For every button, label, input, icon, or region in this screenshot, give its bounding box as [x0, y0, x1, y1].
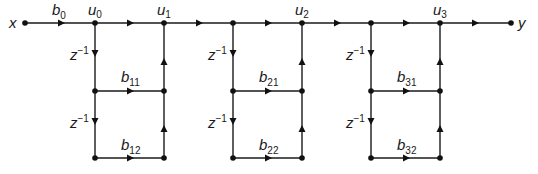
gain-b11-label: b11 [121, 68, 140, 88]
stage-1: z−1 z−1 b11 b12 [69, 20, 168, 161]
arrow-right-icon [472, 20, 479, 27]
node-u3-label: u3 [433, 1, 447, 20]
arrow-down-icon [368, 118, 375, 125]
arrow-down-icon [230, 118, 237, 125]
output-label: y [517, 14, 527, 31]
delay-label: z−1 [69, 113, 89, 131]
gain-b32-label: b32 [397, 136, 417, 156]
arrow-right-icon [196, 20, 203, 27]
arrow-down-icon [230, 50, 237, 57]
delay-label: z−1 [69, 45, 89, 63]
delay-label: z−1 [345, 113, 365, 131]
arrow-down-icon [92, 118, 99, 125]
node-u1-label: u1 [157, 1, 171, 20]
signal-flow-diagram: x y b0 u0 u1 u2 u3 z−1 z−1 b11 b12 [0, 0, 538, 174]
gain-b31-label: b31 [397, 68, 417, 88]
arrow-right-icon [334, 20, 341, 27]
arrow-down-icon [368, 50, 375, 57]
arrow-right-icon [265, 20, 272, 27]
arrow-up-icon [161, 58, 168, 65]
gain-b21-label: b21 [259, 68, 279, 88]
input-label: x [8, 14, 17, 31]
delay-label: z−1 [207, 113, 227, 131]
arrow-right-icon [403, 20, 410, 27]
stage-3: z−1 z−1 b31 b32 [345, 20, 444, 161]
output-node [508, 20, 514, 26]
gain-b0-label: b0 [52, 1, 66, 21]
node-u0-label: u0 [88, 1, 102, 20]
arrow-right-icon [127, 20, 134, 27]
arrow-right-icon [403, 88, 410, 95]
arrow-up-icon [299, 125, 306, 132]
delay-label: z−1 [207, 45, 227, 63]
arrow-down-icon [92, 50, 99, 57]
delay-label: z−1 [345, 45, 365, 63]
arrow-up-icon [161, 125, 168, 132]
arrow-up-icon [437, 125, 444, 132]
arrow-right-icon [127, 88, 134, 95]
arrow-up-icon [299, 58, 306, 65]
node-u2-label: u2 [295, 1, 309, 20]
gain-b12-label: b12 [121, 136, 141, 156]
input-node [22, 20, 28, 26]
arrow-up-icon [437, 58, 444, 65]
arrow-right-icon [265, 88, 272, 95]
stage-2: z−1 z−1 b21 b22 [207, 20, 306, 161]
gain-b22-label: b22 [259, 136, 279, 156]
